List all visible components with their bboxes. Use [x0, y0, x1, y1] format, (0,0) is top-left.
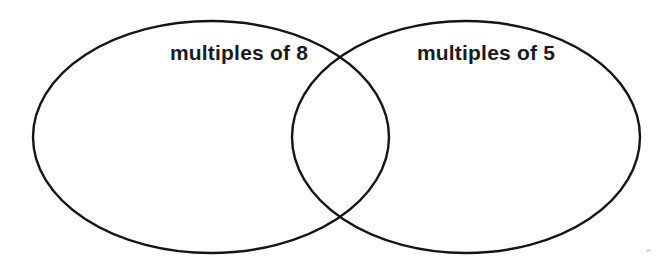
scan-artifact-dot — [646, 249, 651, 252]
venn-diagram: multiples of 8 multiples of 5 — [0, 0, 671, 266]
right-set-label: multiples of 5 — [417, 41, 555, 64]
left-set-label: multiples of 8 — [170, 41, 308, 64]
venn-diagram-canvas: multiples of 8 multiples of 5 — [0, 0, 671, 266]
